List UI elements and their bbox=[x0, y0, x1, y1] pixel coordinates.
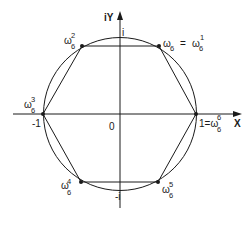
vertex-w6-4 bbox=[79, 180, 83, 184]
svg-text:5: 5 bbox=[169, 180, 173, 189]
svg-text:6: 6 bbox=[170, 44, 174, 53]
pos-i-label: i bbox=[122, 27, 124, 38]
svg-text:6: 6 bbox=[199, 44, 203, 53]
neg-i-label: -i bbox=[115, 191, 121, 202]
y-axis: iY bbox=[104, 11, 123, 208]
vertex-w6-0 bbox=[194, 112, 198, 116]
label-w6-5: ω 5 6 bbox=[162, 180, 173, 200]
svg-text:1=ω: 1=ω bbox=[199, 118, 218, 129]
svg-text:6: 6 bbox=[169, 191, 173, 200]
svg-text:1: 1 bbox=[200, 33, 204, 42]
svg-text:6: 6 bbox=[71, 42, 75, 51]
svg-text:6: 6 bbox=[217, 125, 221, 134]
label-w6-3: ω 3 6 bbox=[24, 95, 35, 115]
vertex-w6-5 bbox=[156, 180, 160, 184]
svg-text:=: = bbox=[180, 38, 186, 49]
label-w6-1: ω 6 = ω 1 6 bbox=[163, 33, 204, 53]
svg-text:6: 6 bbox=[217, 113, 221, 122]
vertex-w6-3 bbox=[41, 112, 45, 116]
svg-text:3: 3 bbox=[31, 95, 35, 104]
label-w6-2: ω 2 6 bbox=[64, 31, 75, 51]
label-w6-0: 1=ω 6 6 bbox=[199, 113, 221, 134]
svg-text:2: 2 bbox=[71, 31, 75, 40]
x-axis-arrow-icon bbox=[233, 111, 242, 117]
y-axis-label: iY bbox=[104, 12, 114, 23]
svg-text:6: 6 bbox=[31, 106, 35, 115]
label-w6-4: ω 4 6 bbox=[61, 177, 71, 197]
origin-label: 0 bbox=[109, 121, 115, 132]
neg-one-label: -1 bbox=[32, 118, 41, 129]
y-axis-arrow-icon bbox=[117, 11, 123, 20]
vertex-w6-2 bbox=[80, 44, 84, 48]
roots-of-unity-diagram: X iY 0 -1 i -i 1=ω 6 6 ω 6 = ω 1 6 ω bbox=[0, 0, 252, 226]
vertex-w6-1 bbox=[157, 44, 161, 48]
svg-text:4: 4 bbox=[67, 177, 71, 186]
x-axis-label: X bbox=[234, 118, 241, 129]
svg-text:6: 6 bbox=[67, 188, 71, 197]
